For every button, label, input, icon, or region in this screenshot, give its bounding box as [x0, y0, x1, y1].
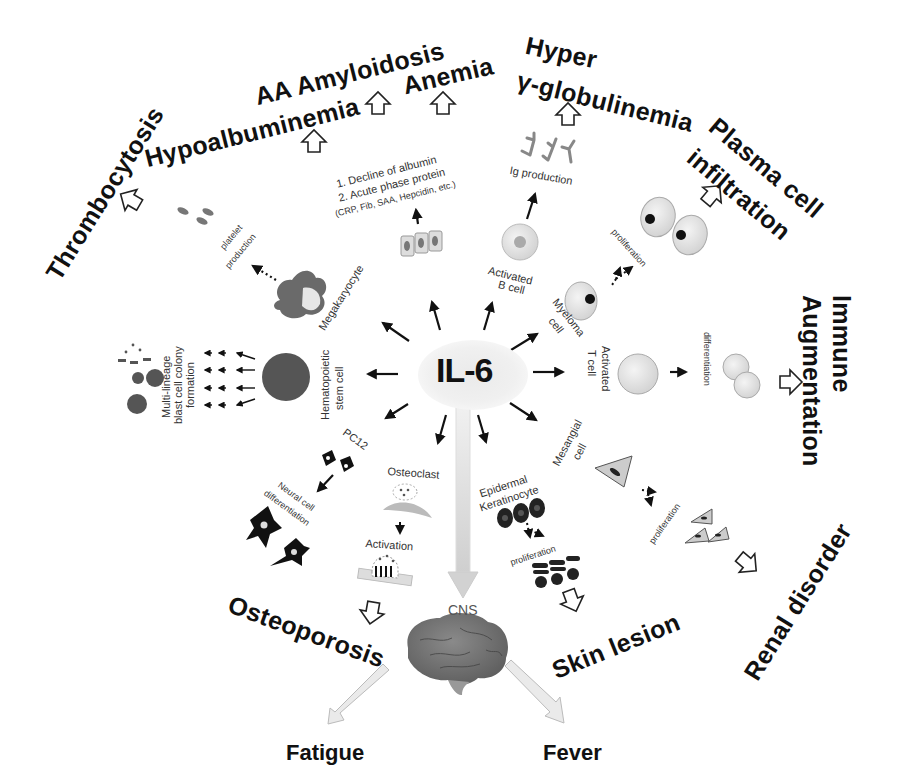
label-activated-t-cell-2: T cell: [586, 350, 598, 376]
blast-colony-icons: [118, 344, 164, 414]
differentiated-cell-2: [734, 372, 760, 398]
hepatocytes-icon: [401, 231, 442, 256]
label-activated-t-cell-1: Activated: [600, 346, 612, 391]
anemia-arrow: [431, 92, 455, 114]
keratinocyte-proliferation-icon: [532, 556, 580, 588]
proliferated-mesangial-cells: [685, 509, 729, 543]
label-cns: CNS: [448, 602, 478, 618]
fatigue-arrow: [328, 664, 389, 724]
label-hematopoietic: Hematopoietic: [319, 350, 331, 420]
outcome-fatigue: Fatigue: [286, 740, 364, 766]
outcome-fever: Fever: [543, 740, 602, 766]
antibodies-icon: [522, 133, 574, 162]
osteoporosis-arrow: [358, 600, 385, 626]
renal-disorder-arrow: [732, 547, 764, 580]
osteoclast-cell: [393, 484, 417, 500]
label-differentiation-t: differentiation: [702, 332, 712, 386]
label-blast-cell-colony: blast cell colony: [172, 346, 184, 424]
label-multilineage: Multi-lineage: [160, 356, 172, 418]
il6-label: IL-6: [436, 351, 492, 390]
outcome-immune: Immune: [827, 295, 856, 393]
cns-arrow: [448, 400, 478, 598]
label-formation: formation: [184, 362, 196, 408]
brain-icon: [407, 613, 508, 695]
aa-amyloidosis-arrow: [366, 92, 390, 114]
label-stem-cell: stem cell: [333, 367, 345, 410]
skin-lesion-arrow: [557, 586, 587, 615]
pc12-cells-icon: [322, 450, 354, 472]
hematopoietic-stem-cell: [262, 353, 310, 401]
outcome-augmentation: Augmentation: [797, 295, 826, 467]
platelets-icon: [176, 206, 214, 227]
lineage-arrows: [205, 353, 255, 405]
activated-t-cell: [618, 354, 658, 394]
